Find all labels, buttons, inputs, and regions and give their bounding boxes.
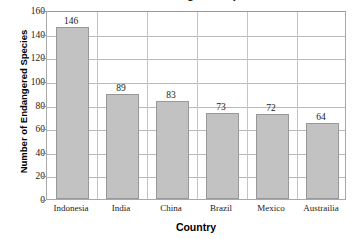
bar <box>106 94 139 199</box>
chart-title: Number of Endangered Species <box>0 0 354 1</box>
bar-value-label: 73 <box>197 102 246 112</box>
x-axis-title: Country <box>46 221 346 233</box>
bar <box>256 114 289 199</box>
bar-value-label: 64 <box>297 112 346 122</box>
x-axis-tick-label: Austrailia <box>290 203 352 213</box>
bar-value-label: 89 <box>97 83 146 93</box>
bar <box>206 113 239 199</box>
bar <box>56 27 89 199</box>
bar <box>156 101 189 199</box>
bar <box>306 123 339 199</box>
y-axis-tick-mark <box>42 200 46 201</box>
bar-value-label: 83 <box>147 90 196 100</box>
bar-chart: Number of Endangered Species Number of E… <box>0 0 354 239</box>
bar-value-label: 146 <box>47 16 96 26</box>
bar-value-label: 72 <box>247 103 296 113</box>
